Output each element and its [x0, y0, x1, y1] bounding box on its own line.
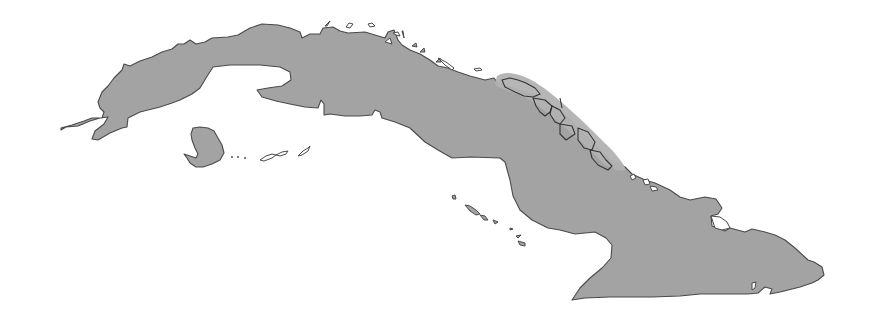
south-cays — [452, 195, 525, 246]
map-container — [0, 0, 876, 323]
canarreos-archipelago — [231, 146, 310, 161]
isla-de-la-juventud — [184, 127, 224, 167]
main-island — [61, 24, 824, 300]
cuba-map — [0, 0, 876, 323]
